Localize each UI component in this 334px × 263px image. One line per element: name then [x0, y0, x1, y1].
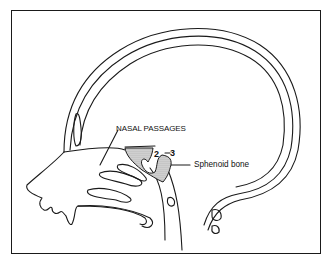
marker-2: 2	[154, 149, 159, 159]
sphenoid-bone-shaded	[125, 148, 171, 182]
frontal-sinus	[74, 114, 82, 146]
pharynx-back	[168, 170, 182, 250]
nasal-floor	[64, 148, 125, 152]
label-nasal-passages: NASAL PASSAGES	[116, 124, 186, 133]
marker-3: 3	[170, 148, 175, 158]
nose-profile	[27, 152, 147, 225]
nasal-roof	[125, 146, 155, 147]
vertebra-2	[212, 209, 221, 220]
label-sphenoid-bone: Sphenoid bone	[194, 160, 249, 169]
vertebra-3	[212, 225, 219, 233]
vertebra-1	[167, 197, 174, 206]
turbinate-lower	[87, 188, 131, 202]
turbinate-upper	[99, 171, 141, 186]
